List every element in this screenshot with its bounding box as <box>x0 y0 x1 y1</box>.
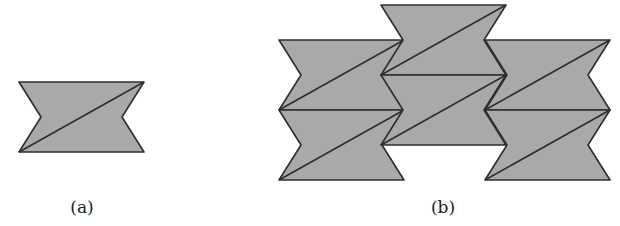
panel-b-caption: (b) <box>431 197 455 217</box>
panel-b-tessellation <box>279 5 610 180</box>
panel-a-caption: (a) <box>70 197 93 217</box>
panel-a-single-tile <box>19 82 144 152</box>
tiling-figure <box>0 0 620 226</box>
